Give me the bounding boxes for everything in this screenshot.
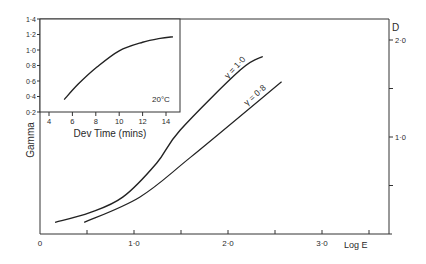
- y-axis-label: D: [392, 22, 399, 33]
- chart-figure: 01·02·03·0 1·02·0 Log E D γ = 1·0 γ = 0·…: [0, 0, 426, 264]
- inset-y-tick-label: 0·8: [26, 62, 36, 69]
- y-axis-ticks: 1·02·0: [389, 36, 406, 186]
- x-axis-ticks: 01·02·03·0: [38, 230, 369, 248]
- inset-y-tick-label: 0·2: [26, 109, 36, 116]
- inset-x-tick-label: 10: [115, 117, 123, 126]
- inset-plot: 468101214 0·20·40·60·81·01·21·4 Dev Time…: [25, 16, 180, 158]
- x-axis-label: Log E: [344, 240, 368, 250]
- inset-x-tick-label: 6: [70, 117, 74, 126]
- y-tick-label: 2·0: [395, 36, 406, 45]
- temperature-annotation: 20°C: [152, 95, 170, 104]
- x-tick-label: 3·0: [316, 239, 328, 248]
- inset-y-tick-label: 0·6: [26, 78, 36, 85]
- x-tick-label: 0: [38, 239, 43, 248]
- inset-y-tick-label: 1·2: [26, 31, 36, 38]
- inset-x-tick-label: 8: [94, 117, 98, 126]
- inset-x-ticks: 468101214: [47, 112, 170, 126]
- inset-x-axis-label: Dev Time (mins): [74, 128, 147, 139]
- inset-y-axis-label: Gamma: [25, 122, 36, 158]
- x-tick-label: 1·0: [128, 239, 140, 248]
- inset-y-tick-label: 1·0: [26, 47, 36, 54]
- inset-y-tick-label: 0·4: [26, 93, 36, 100]
- x-tick-label: 2·0: [222, 239, 234, 248]
- inset-y-tick-label: 1·4: [26, 16, 36, 23]
- inset-y-ticks: 0·20·40·60·81·01·21·4: [26, 16, 40, 116]
- inset-x-tick-label: 4: [47, 117, 51, 126]
- inset-x-tick-label: 14: [162, 117, 170, 126]
- y-tick-label: 1·0: [395, 133, 406, 142]
- inset-x-tick-label: 12: [138, 117, 146, 126]
